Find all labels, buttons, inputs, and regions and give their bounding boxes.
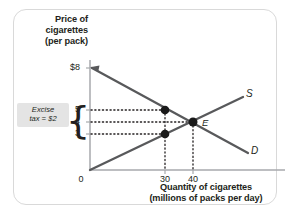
excise-tax-line-2: tax = $2 <box>19 114 67 123</box>
excise-tax-brace: { <box>66 101 76 139</box>
equilibrium-label: E <box>202 117 208 128</box>
x-tick-label-30: 30 <box>154 174 176 184</box>
equilibrium-point <box>189 118 198 127</box>
x-axis-title: Quantity of cigarettes (millions of pack… <box>118 182 294 204</box>
y-axis-title-line-3: (per pack) <box>22 36 88 47</box>
consumer-price-point <box>161 106 170 115</box>
x-axis-title-line-2: (millions of packs per day) <box>118 193 294 204</box>
excise-tax-line-1: Excise <box>19 105 67 114</box>
excise-tax-callout: Excise tax = $2 <box>17 103 69 127</box>
y-tick-label-8: $8 <box>58 62 80 72</box>
y-axis-title: Price of cigarettes (per pack) <box>22 14 88 48</box>
x-tick-label-40: 40 <box>182 174 204 184</box>
producer-price-point <box>161 130 170 139</box>
y-axis-title-line-1: Price of <box>22 14 88 25</box>
x-axis-title-line-1: Quantity of cigarettes <box>118 182 294 193</box>
origin-label: 0 <box>74 174 88 184</box>
demand-curve-label: D <box>251 145 258 156</box>
supply-curve-label: S <box>246 88 253 99</box>
y-axis-title-line-2: cigarettes <box>22 25 88 36</box>
figure-container: Price of cigarettes (per pack) Quantity … <box>0 0 294 224</box>
plot-area: Price of cigarettes (per pack) Quantity … <box>0 0 294 224</box>
